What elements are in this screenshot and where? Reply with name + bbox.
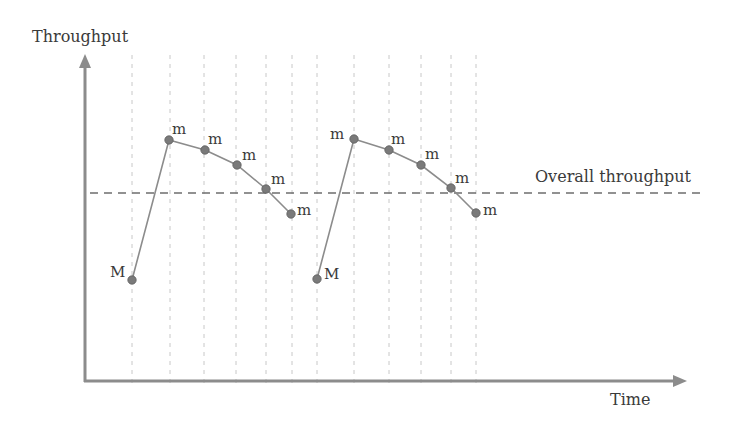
x-axis-arrow-icon <box>673 375 687 387</box>
minor-point <box>262 185 270 193</box>
minor-point <box>472 209 480 217</box>
y-axis-label: Throughput <box>32 27 129 46</box>
point-label: m <box>391 130 405 148</box>
throughput-diagram: MmmmmmMmmmmm Throughput Time Overall thr… <box>0 0 731 433</box>
major-point <box>128 276 136 284</box>
series-line <box>317 139 476 279</box>
point-label: m <box>297 201 311 219</box>
minor-point <box>350 135 358 143</box>
point-label: m <box>208 130 222 148</box>
point-label: m <box>455 169 469 187</box>
minor-point <box>233 161 241 169</box>
point-label: m <box>425 145 439 163</box>
throughput-series: MmmmmmMmmmmm <box>110 120 497 284</box>
series-line <box>132 140 291 280</box>
point-label: m <box>271 170 285 188</box>
series-cycle-2: Mmmmmm <box>313 125 497 283</box>
major-point <box>313 275 321 283</box>
point-label: M <box>324 265 339 283</box>
point-label: m <box>172 120 186 138</box>
overall-throughput-label: Overall throughput <box>535 167 692 186</box>
point-label: m <box>330 125 344 143</box>
minor-point <box>417 161 425 169</box>
y-axis-arrow-icon <box>79 54 91 68</box>
series-cycle-1: Mmmmmm <box>110 120 311 284</box>
minor-point <box>447 184 455 192</box>
minor-point <box>287 210 295 218</box>
point-label: m <box>483 201 497 219</box>
point-label: m <box>242 146 256 164</box>
point-label: M <box>110 263 125 281</box>
vertical-grid-lines <box>132 55 476 388</box>
x-axis-label: Time <box>610 390 650 409</box>
